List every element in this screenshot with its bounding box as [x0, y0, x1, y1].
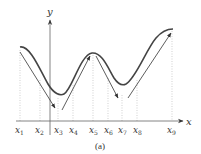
tick-x4: x4 [69, 125, 78, 136]
direction-arrows [20, 33, 171, 110]
tick-x3: x3 [54, 125, 63, 136]
tick-x6: x6 [104, 125, 113, 136]
function-curve [20, 29, 173, 95]
figure-caption: (a) [95, 141, 105, 151]
arrow-ascent-2 [128, 33, 171, 98]
guide-lines [20, 31, 172, 121]
tick-x1: x1 [15, 125, 24, 136]
tick-x7: x7 [118, 125, 127, 136]
arrow-ascent-1 [62, 56, 90, 110]
tick-x5: x5 [89, 125, 98, 136]
y-axis-label: y [46, 6, 53, 17]
x-axis-label: x [186, 116, 192, 127]
x-tick-labels: x1 x2 x3 x4 x5 x6 x7 x8 x9 [15, 125, 176, 136]
tick-x9: x9 [167, 125, 176, 136]
tick-x2: x2 [35, 125, 44, 136]
function-diagram: y x x1 x2 x3 x4 x5 x6 x7 x8 x9 (a) [0, 0, 201, 154]
arrow-descent-2 [96, 56, 118, 98]
tick-x8: x8 [133, 125, 142, 136]
